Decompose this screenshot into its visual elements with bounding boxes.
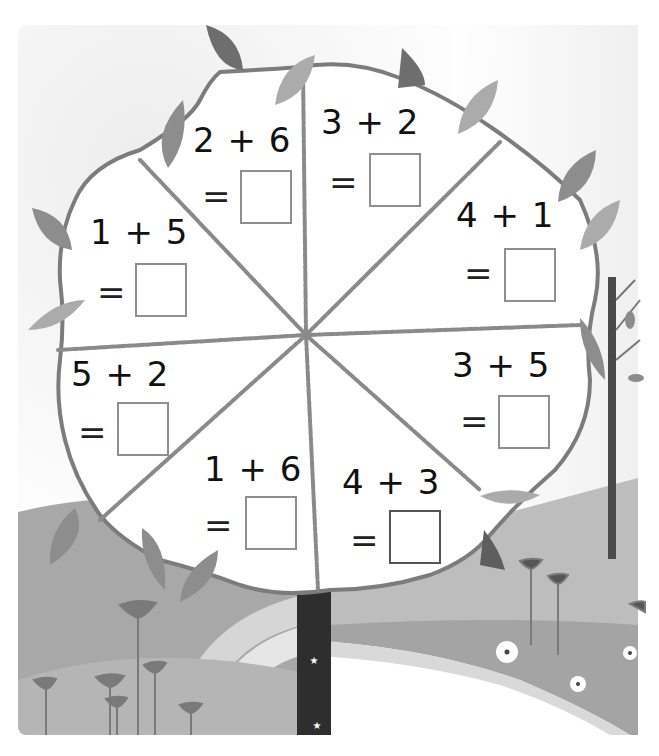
- small-tree-trunk: [608, 277, 616, 559]
- equals-sign: =: [460, 404, 489, 438]
- problem-expression: 3 + 2: [321, 105, 419, 139]
- equals-sign: =: [464, 256, 493, 290]
- answer-box[interactable]: [369, 153, 421, 207]
- svg-text:★: ★: [310, 655, 319, 666]
- worksheet-page: ★ ★: [0, 0, 659, 756]
- problem-expression: 5 + 2: [71, 357, 169, 391]
- answer-box[interactable]: [117, 402, 169, 456]
- answer-box[interactable]: [389, 510, 441, 564]
- equals-sign: =: [329, 165, 358, 199]
- problem-expression: 1 + 5: [90, 215, 188, 249]
- answer-box[interactable]: [498, 395, 550, 449]
- equals-sign: =: [350, 523, 379, 557]
- equals-sign: =: [97, 275, 126, 309]
- answer-box[interactable]: [504, 248, 556, 302]
- equals-sign: =: [202, 179, 231, 213]
- answer-box[interactable]: [245, 496, 297, 550]
- problem-expression: 2 + 6: [193, 123, 291, 157]
- problem-expression: 4 + 3: [342, 465, 440, 499]
- svg-text:★: ★: [313, 720, 322, 731]
- answer-box[interactable]: [240, 170, 292, 224]
- equals-sign: =: [204, 508, 233, 542]
- equals-sign: =: [78, 415, 107, 449]
- problem-expression: 4 + 1: [456, 198, 554, 232]
- problem-expression: 3 + 5: [452, 348, 550, 382]
- answer-box[interactable]: [135, 263, 187, 317]
- problem-expression: 1 + 6: [204, 452, 302, 486]
